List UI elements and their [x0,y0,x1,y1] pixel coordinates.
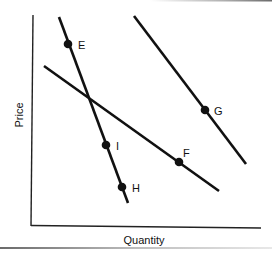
point-g-label: G [214,105,223,117]
point-h-label: H [132,182,140,194]
point-f-label: F [183,147,190,159]
point-i-label: I [116,140,119,152]
middle-curve-line [44,66,219,191]
y-axis [31,15,33,226]
point-e-marker [64,40,73,49]
bottom-frame-edge [0,247,272,249]
top-frame-edge [150,0,272,2]
x-axis-label: Quantity [124,234,165,246]
chart-canvas: EGIFH Price Quantity [0,0,272,257]
x-axis [31,226,261,229]
point-f-marker [175,158,184,167]
y-axis-label: Price [13,102,25,127]
point-e-label: E [78,39,85,51]
point-g-marker [201,106,210,115]
point-h-marker [118,183,127,192]
point-i-marker [102,141,111,150]
data-points: EGIFH [64,39,223,194]
